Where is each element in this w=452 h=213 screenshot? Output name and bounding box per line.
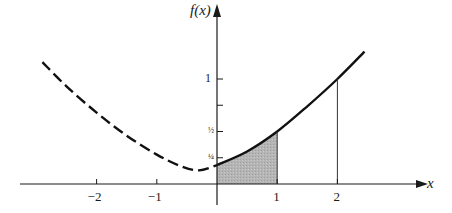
vertical-lines xyxy=(277,79,337,184)
curve xyxy=(42,52,364,171)
y-tick-label: ¼ xyxy=(208,152,214,161)
function-plot xyxy=(0,0,452,213)
y-axis-label: f(x) xyxy=(190,2,211,19)
x-tick-label: −1 xyxy=(148,189,162,205)
x-axis-label: x xyxy=(427,175,434,192)
x-tick-label: −2 xyxy=(88,189,102,205)
x-tick-label: 1 xyxy=(273,189,280,205)
y-tick-label: 1 xyxy=(205,71,211,86)
y-tick-label: ½ xyxy=(208,126,214,135)
x-tick-label: 2 xyxy=(333,189,340,205)
